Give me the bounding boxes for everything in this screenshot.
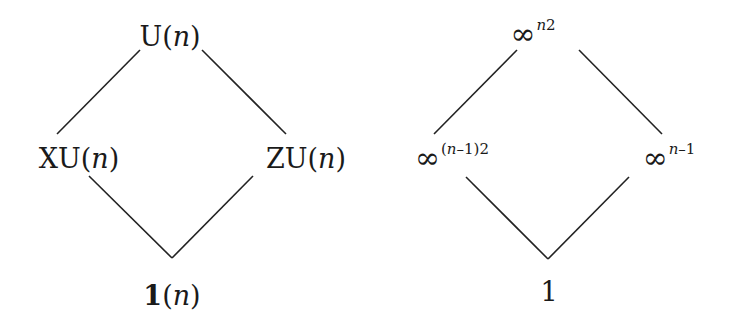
node-one: 1 [540, 278, 557, 305]
infinity-symbol: ∞ [510, 16, 535, 51]
exp-text: –1)2 [457, 140, 489, 158]
exp-text: 2 [546, 16, 556, 34]
infinity-symbol: ∞ [643, 140, 668, 175]
exponent: n–1 [669, 140, 696, 158]
node-text: ( [162, 280, 173, 311]
node-text: XU( [39, 143, 92, 174]
exp-var: n [447, 140, 457, 158]
node-text: ) [109, 143, 120, 174]
exp-var: n [536, 16, 546, 34]
lattice-diagrams: U(n) XU(n) ZU(n) 1(n) ∞n2 ∞(n–1)2 ∞n–1 1 [0, 0, 732, 327]
node-text: ) [190, 21, 201, 52]
edge-xu-one [89, 176, 172, 258]
node-text: ) [335, 143, 346, 174]
node-text: U( [139, 21, 172, 52]
node-var: n [173, 280, 190, 311]
node-inf-n-minus-1-squared: ∞(n–1)2 [415, 143, 489, 173]
node-one-n: 1(n) [143, 282, 200, 309]
exp-text: –1 [678, 140, 695, 158]
edge-top-left-right [434, 50, 517, 134]
node-var: n [318, 143, 335, 174]
node-text: 1 [540, 276, 557, 307]
node-inf-n-squared: ∞n2 [510, 19, 555, 49]
node-zu-n: ZU(n) [266, 145, 346, 172]
exponent: n2 [536, 16, 555, 34]
exponent: (n–1)2 [441, 140, 489, 158]
edge-midright-bottom-right [548, 177, 629, 259]
infinity-symbol: ∞ [415, 140, 440, 175]
node-text: ZU( [266, 143, 318, 174]
node-var: n [91, 143, 108, 174]
node-bold-one: 1 [143, 280, 162, 311]
edge-u-xu [57, 50, 140, 134]
edge-midleft-bottom-right [466, 177, 548, 259]
node-inf-n-minus-1: ∞n–1 [643, 143, 696, 173]
node-xu-n: XU(n) [39, 145, 119, 172]
edge-u-zu [202, 50, 286, 134]
edge-zu-one [172, 176, 253, 258]
edge-top-right-right [579, 50, 662, 134]
node-text: ) [190, 280, 201, 311]
exp-var: n [669, 140, 679, 158]
node-u-n: U(n) [139, 23, 200, 50]
node-var: n [173, 21, 190, 52]
